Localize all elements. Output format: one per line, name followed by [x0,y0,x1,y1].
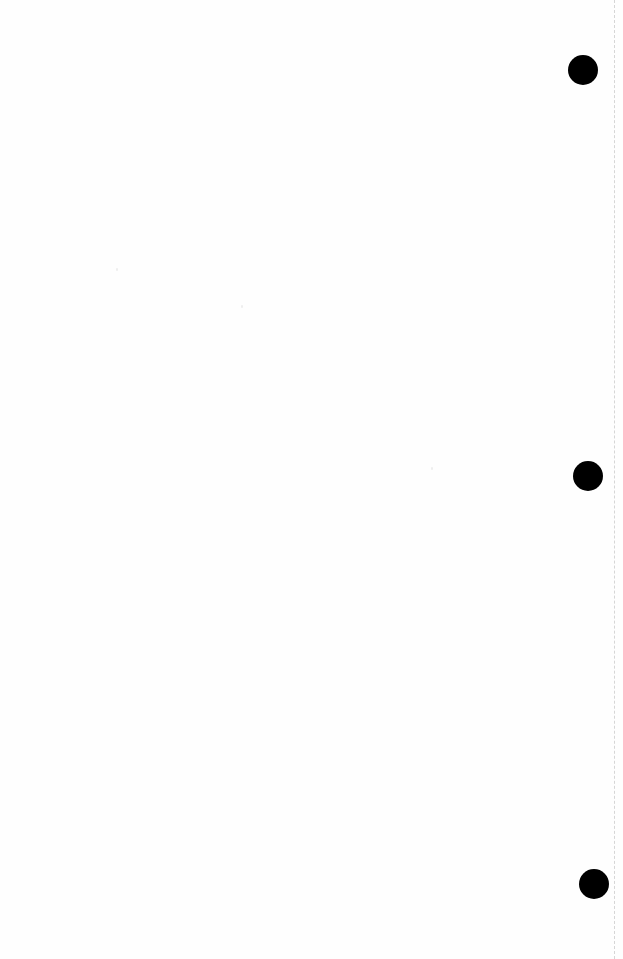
blank-page [0,0,623,959]
scan-speck [431,467,433,470]
scan-edge-line [614,0,615,959]
scan-speck [116,268,118,271]
punch-hole-middle [573,461,603,491]
punch-hole-top [568,55,598,85]
scan-speck [241,305,243,308]
punch-hole-bottom [579,869,609,899]
